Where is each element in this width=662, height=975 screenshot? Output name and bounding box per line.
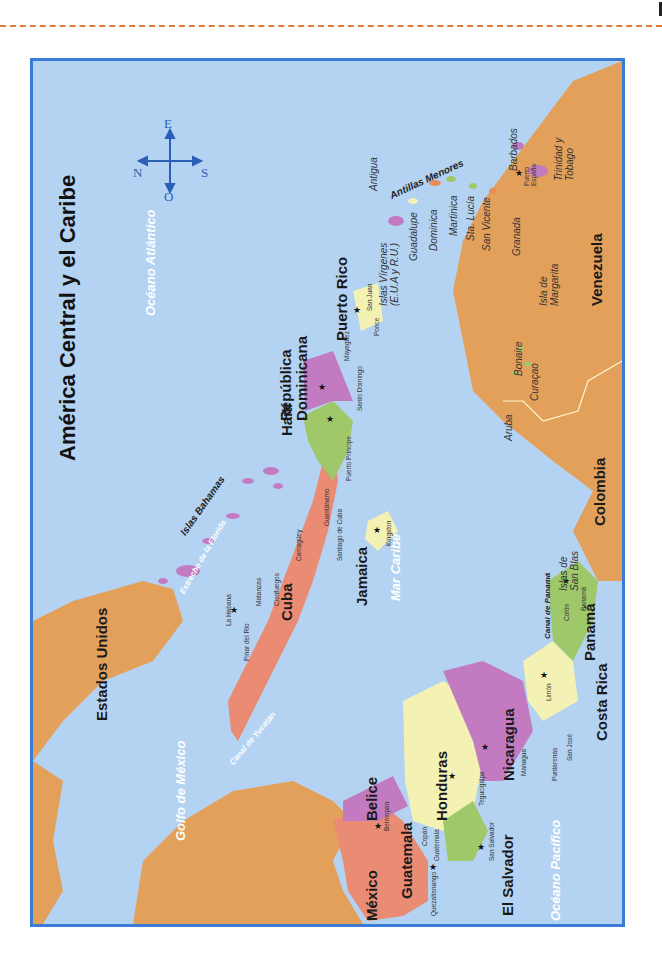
- city-la-habana: La Habana: [225, 594, 232, 626]
- costa-rica-label: Costa Rica: [593, 663, 610, 741]
- map-frame: ★ ★ ★ ★ ★ ★ ★ ★ ★ ★ ★ ★ ★ América Centra…: [30, 58, 625, 927]
- compass-east-label: E: [164, 116, 172, 132]
- city-guatemala: Guatemala: [433, 829, 440, 861]
- city-panama: Panamá: [580, 587, 587, 611]
- aruba-label: Aruba: [503, 414, 514, 441]
- mexico-label: México: [363, 870, 380, 921]
- city-tegucigalpa: Tegucigalpa: [478, 771, 485, 806]
- antigua-label: Antigua: [368, 157, 379, 191]
- city-san-salvador: San Salvador: [488, 822, 495, 861]
- san-vicente-label: San Vicente: [481, 197, 492, 251]
- panama-label: Panamá: [581, 603, 598, 661]
- martinica-label: Martinica: [448, 195, 459, 236]
- city-cienfuegos: Cienfuegos: [273, 573, 280, 606]
- granada-label: Granada: [511, 217, 522, 256]
- compass-south-label: S: [201, 165, 208, 181]
- city-puntarenas: Puntarenas: [551, 748, 558, 781]
- pacific-ocean-label: Océano Pacífico: [548, 820, 563, 921]
- svg-text:★: ★: [540, 670, 548, 680]
- compass-west-label: O: [164, 189, 173, 205]
- guatemala-label: Guatemala: [398, 822, 415, 899]
- panama-canal-label: Canal de Panamá: [543, 573, 552, 639]
- city-limon: Limón: [545, 683, 552, 701]
- city-camaguey: Camagüey: [295, 530, 302, 561]
- usa-label: Estados Unidos: [93, 608, 110, 721]
- el-salvador-label: El Salvador: [499, 834, 516, 916]
- atlantic-ocean-label: Océano Atlántico: [143, 210, 158, 316]
- city-kingston: Kingston: [385, 521, 392, 546]
- bonaire-label: Bonaire: [513, 342, 524, 376]
- compass-north-label: N: [133, 165, 142, 181]
- city-managua: Managua: [520, 749, 527, 776]
- svg-text:★: ★: [429, 862, 437, 872]
- city-belmopan: Belmopan: [383, 802, 390, 831]
- usa-gulf-coast: [33, 761, 63, 924]
- city-guantanamo: Guantánamo: [323, 488, 330, 526]
- svg-text:★: ★: [353, 305, 361, 315]
- nicaragua-label: Nicaragua: [500, 708, 517, 781]
- city-san-juan: San Juan: [366, 284, 373, 311]
- virgin-islands-label: Islas Vírgenes (E.U.A y R.U.): [378, 236, 400, 306]
- city-colon: Colón: [563, 604, 570, 621]
- svg-text:★: ★: [481, 742, 489, 752]
- mexico-landmass: [133, 781, 363, 924]
- dominican-republic-text: República Dominicana: [278, 331, 310, 421]
- svg-text:★: ★: [374, 821, 382, 831]
- honduras-label: Honduras: [433, 751, 450, 821]
- svg-text:★: ★: [373, 525, 381, 535]
- svg-text:★: ★: [318, 382, 326, 392]
- dominica-label: Dominica: [428, 209, 439, 251]
- map-title: América Central y el Caribe: [55, 175, 81, 461]
- city-puerto-principe: Puerto Príncipe: [345, 436, 352, 481]
- city-santo-domingo: Santo Domingo: [356, 366, 363, 411]
- trinidad-label: Trinidad y Tobago: [553, 131, 575, 181]
- curacao-label: Curaçao: [529, 363, 540, 401]
- colombia-label: Colombia: [591, 458, 608, 526]
- city-quezaltenango: Quezaltenango: [430, 872, 437, 916]
- city-santiago-de-cuba: Santiago de Cuba: [336, 509, 343, 561]
- cuba-label: Cuba: [278, 584, 295, 622]
- venezuela-label: Venezuela: [588, 233, 605, 306]
- sta-lucia-label: Sta. Lucía: [465, 196, 476, 241]
- city-pinar-del-rio: Pinar del Río: [243, 623, 250, 661]
- compass-icon: [139, 130, 201, 192]
- page-divider: [0, 25, 662, 27]
- puerto-rico-label: Puerto Rico: [333, 257, 350, 341]
- san-blas-label: Islas de San Blas: [558, 541, 580, 591]
- city-puerto-espana: Puerto España: [523, 156, 537, 186]
- margarita-label: Isla de Margarita: [538, 251, 560, 306]
- city-matanzas: Matanzas: [255, 578, 262, 606]
- dominican-republic-label: República Dominicana: [278, 331, 310, 421]
- belize-label: Belice: [363, 777, 380, 821]
- guadalupe-label: Guadalupe: [408, 212, 419, 261]
- svg-text:★: ★: [477, 842, 485, 852]
- gulf-of-mexico-label: Golfo de México: [173, 741, 188, 841]
- svg-text:★: ★: [326, 414, 334, 424]
- barbados-label: Barbados: [508, 128, 519, 171]
- city-mayaguez: Mayagüez: [343, 331, 350, 361]
- city-san-jose: San José: [566, 734, 573, 761]
- city-ponce: Ponce: [373, 318, 380, 336]
- jamaica-label: Jamaica: [353, 547, 370, 606]
- city-copan: Copán: [421, 827, 428, 846]
